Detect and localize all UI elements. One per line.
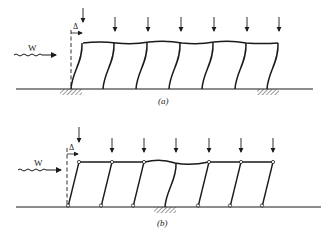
pin-joint (207, 160, 210, 163)
columns-b (66, 160, 274, 207)
fixed-column (165, 163, 176, 207)
column (267, 43, 278, 89)
column (235, 43, 246, 89)
pinned-column (68, 162, 79, 207)
diagram-a: Δ W (a) (14, 8, 313, 106)
pin-joint (260, 204, 263, 207)
column (169, 43, 180, 89)
column (71, 43, 82, 89)
gravity-loads-a (83, 8, 279, 31)
pin-joint (77, 160, 80, 163)
caption-b: (b) (157, 218, 168, 228)
pin-joint (196, 204, 199, 207)
gravity-loads-b (79, 127, 273, 152)
pin-joint (239, 160, 242, 163)
columns-a (71, 43, 278, 89)
pinned-column (262, 162, 273, 207)
pin-joint (228, 204, 231, 207)
pinned-column (230, 162, 241, 207)
pin-joint (110, 160, 113, 163)
column (103, 43, 114, 89)
wind-label: W (34, 158, 43, 168)
pin-joint (142, 160, 145, 163)
wind-wave (18, 169, 46, 171)
drift-label: Δ (73, 22, 78, 31)
fixed-support-hatch (257, 89, 279, 95)
drift-label: Δ (69, 143, 74, 152)
pinned-column (133, 162, 144, 207)
caption-a: (a) (158, 96, 169, 106)
diagram-b: Δ W (b) (16, 127, 321, 228)
fixed-support-hatch (154, 207, 176, 213)
pinned-column (198, 162, 209, 207)
pin-joint (99, 204, 102, 207)
column (202, 43, 213, 89)
pin-joint (131, 204, 134, 207)
pin-joint (271, 160, 274, 163)
pinned-column (101, 162, 112, 207)
wind-label: W (28, 43, 37, 53)
fixed-support-hatch (60, 89, 82, 95)
wind-wave (14, 54, 42, 56)
column (136, 43, 147, 89)
frame-diagram: Δ W (a) Δ W (b) (0, 0, 331, 233)
